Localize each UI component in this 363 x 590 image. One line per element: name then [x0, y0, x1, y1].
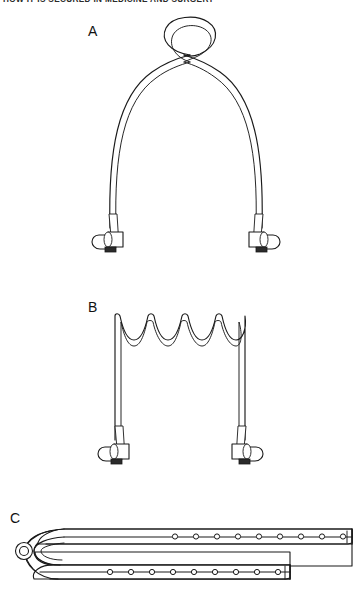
figure-page: HOW IT IS SECURED IN MEDICINE AND SURGER… — [0, 0, 363, 590]
strap-hole — [275, 569, 280, 574]
strap-hole — [170, 569, 175, 574]
panel-c-upper-band — [28, 530, 352, 566]
panel-c-upper-strip — [38, 529, 352, 544]
strap-hole — [149, 569, 154, 574]
strap-hole — [256, 534, 261, 539]
running-header-text: HOW IT IS SECURED IN MEDICINE AND SURGER… — [3, 0, 214, 4]
clamp-collar-tab — [111, 459, 122, 464]
clamp-collar-tab — [256, 247, 267, 252]
panel-a-device — [110, 17, 262, 228]
panel-c-ring-outer — [16, 543, 33, 560]
strap-hole — [277, 534, 282, 539]
panel-b-inner-wall — [121, 321, 241, 441]
clamp-tube-stub — [253, 214, 263, 248]
panel-label-a: A — [88, 24, 97, 38]
panel-b-device — [115, 314, 245, 440]
clamp-wing-lever — [262, 235, 280, 249]
strap-hole — [193, 534, 198, 539]
panel-c-lower-strip — [35, 552, 290, 565]
strap-hole — [212, 569, 217, 574]
strap-hole — [235, 534, 240, 539]
panel-label-c: C — [10, 511, 20, 525]
clamp-barrel-end — [243, 444, 251, 459]
panel-c-fold-inner — [34, 537, 64, 565]
strap-hole — [319, 534, 324, 539]
strap-hole — [298, 534, 303, 539]
clamp-tube-stub — [115, 426, 125, 460]
strap-hole — [172, 534, 177, 539]
panel-a-arch-inner — [116, 62, 190, 228]
strap-hole — [128, 569, 133, 574]
clamp-barrel-end — [110, 444, 118, 459]
panel-a-arch-outer-right — [184, 55, 262, 228]
clamp-collar-tab — [105, 247, 116, 252]
panel-b-clamp-left — [98, 426, 129, 464]
strap-hole — [340, 534, 345, 539]
running-header: HOW IT IS SECURED IN MEDICINE AND SURGER… — [0, 0, 363, 7]
strap-hole — [254, 569, 259, 574]
clamp-barrel — [108, 232, 123, 247]
panel-a-loop-outer — [164, 17, 215, 56]
panel-a-arch-inner-right — [184, 62, 256, 228]
panel-b-clamp-right — [232, 426, 263, 464]
panel-a-arch-outer — [110, 55, 190, 228]
clamp-barrel — [114, 444, 129, 459]
panel-c-lower-holes — [107, 569, 280, 574]
panel-c-lower-strip-body — [33, 565, 290, 579]
panel-a-loop-inner — [172, 26, 212, 62]
clamp-tube-stub — [236, 426, 246, 460]
panel-c-fold-crease — [41, 543, 64, 560]
clamp-wing-lever — [98, 447, 116, 461]
strap-hole — [107, 569, 112, 574]
clamp-barrel-end — [104, 232, 112, 247]
strap-hole — [191, 569, 196, 574]
panel-b-outer-wall — [115, 314, 245, 440]
clamp-barrel-end — [260, 232, 268, 247]
clamp-wing-lever — [245, 447, 263, 461]
strap-hole — [214, 534, 219, 539]
panel-c-device — [16, 529, 353, 579]
panel-c-fold-outer — [25, 529, 64, 579]
panel-label-b: B — [88, 300, 97, 314]
clamp-barrel — [249, 232, 264, 247]
panel-a-clamp-right — [249, 214, 280, 252]
clamp-wing-lever — [92, 235, 110, 249]
clamp-barrel — [232, 444, 247, 459]
panel-c-ring-inner — [20, 547, 29, 556]
clamp-collar-tab — [239, 459, 250, 464]
clamp-tube-stub — [109, 214, 119, 248]
figure-artwork — [0, 0, 363, 590]
panel-c-upper-holes — [172, 534, 345, 539]
strap-hole — [233, 569, 238, 574]
panel-c-lower-band — [25, 530, 352, 579]
panel-a-clamp-left — [92, 214, 123, 252]
